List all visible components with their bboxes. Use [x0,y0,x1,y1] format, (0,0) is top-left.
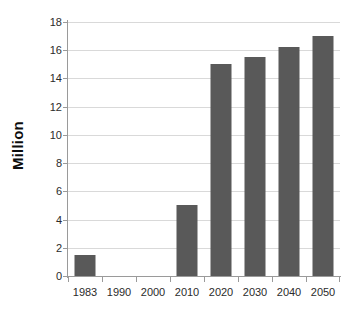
bar-slot [238,22,272,276]
x-axis-tick-mark [170,277,171,282]
x-axis-tick-mark [136,277,137,282]
y-axis-tick-label: 8 [36,157,62,169]
y-axis-tick-mark [63,135,68,136]
bar-slot [68,22,102,276]
bar [75,255,96,276]
x-axis-tick-mark [306,277,307,282]
y-axis-tick-mark [63,163,68,164]
y-axis-tick-label: 0 [36,270,62,282]
bar [245,57,266,276]
x-axis-tick-marks [68,277,340,283]
y-axis-tick-labels: 024681012141618 [36,22,62,276]
y-axis-tick-label: 16 [36,44,62,56]
bar-slot [204,22,238,276]
y-axis-tick-label: 14 [36,72,62,84]
bar [177,205,198,276]
y-axis-tick-label: 6 [36,185,62,197]
bars-layer [68,22,340,276]
y-axis-tick-mark [63,248,68,249]
y-axis-tick-mark [63,220,68,221]
y-axis-tick-mark [63,22,68,23]
x-axis-tick-labels: 19831990200020102020203020402050 [68,286,340,306]
x-axis-tick-mark [68,277,69,282]
x-axis-tick-mark [102,277,103,282]
y-axis-tick-mark [63,276,68,277]
y-axis-title-label: Million [9,121,26,170]
x-axis-tick-label: 2040 [277,286,301,298]
x-axis-tick-label: 2030 [243,286,267,298]
bar-slot [306,22,340,276]
bar-slot [102,22,136,276]
x-axis-tick-mark [339,277,340,282]
x-axis-tick-label: 1990 [107,286,131,298]
bar-slot [136,22,170,276]
bar [279,47,300,276]
y-axis-title: Million [0,0,34,290]
y-axis-tick-label: 10 [36,129,62,141]
x-axis-tick-label: 1983 [73,286,97,298]
x-axis-tick-mark [204,277,205,282]
x-axis-tick-mark [238,277,239,282]
y-axis-tick-label: 2 [36,242,62,254]
x-axis-tick-label: 2020 [209,286,233,298]
bar-slot [272,22,306,276]
y-axis-tick-label: 4 [36,214,62,226]
bar [313,36,334,276]
x-axis-tick-label: 2000 [141,286,165,298]
bar-chart: Million 024681012141618 1983199020002010… [0,0,350,322]
bar-slot [170,22,204,276]
x-axis-tick-mark [272,277,273,282]
x-axis-tick-label: 2010 [175,286,199,298]
y-axis-tick-mark [63,50,68,51]
y-axis-tick-mark [63,191,68,192]
y-axis-tick-mark [63,78,68,79]
y-axis-tick-label: 12 [36,101,62,113]
y-axis-tick-label: 18 [36,16,62,28]
y-axis-tick-mark [63,107,68,108]
x-axis-tick-label: 2050 [311,286,335,298]
bar [211,64,232,276]
